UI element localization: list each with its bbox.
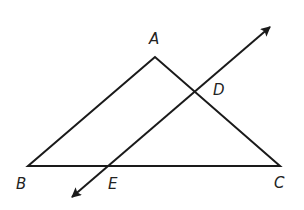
triangle-abc xyxy=(28,57,280,166)
line-ed xyxy=(72,27,270,197)
label-c: C xyxy=(274,176,284,191)
label-d: D xyxy=(213,83,225,98)
label-a: A xyxy=(149,32,159,47)
diagram-canvas: A B C D E xyxy=(0,0,304,210)
label-e: E xyxy=(108,177,117,192)
label-b: B xyxy=(16,177,26,192)
